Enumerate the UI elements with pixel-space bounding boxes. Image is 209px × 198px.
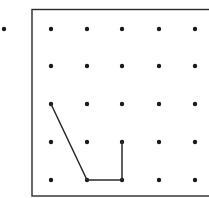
grid-dot	[193, 102, 197, 106]
grid-dot	[157, 27, 161, 31]
grid-dot	[120, 64, 124, 68]
grid-dot	[85, 102, 89, 106]
grid-dot	[49, 140, 53, 144]
grid-dot	[85, 140, 89, 144]
grid-dot	[157, 178, 161, 182]
grid-dot	[193, 178, 197, 182]
grid-dot	[193, 27, 197, 31]
grid-dot	[85, 27, 89, 31]
grid-dot	[120, 27, 124, 31]
grid-dot	[193, 140, 197, 144]
geoboard-diagram	[0, 0, 209, 198]
stray-dot	[2, 27, 6, 31]
grid-dot	[49, 178, 53, 182]
grid-dot	[157, 140, 161, 144]
diagram-canvas	[0, 0, 209, 198]
grid-dot	[85, 64, 89, 68]
grid-dot	[193, 64, 197, 68]
grid-dot	[49, 64, 53, 68]
grid-dots	[49, 27, 197, 182]
grid-dot	[120, 102, 124, 106]
grid-dot	[157, 102, 161, 106]
grid-dot	[49, 27, 53, 31]
grid-dot	[157, 64, 161, 68]
